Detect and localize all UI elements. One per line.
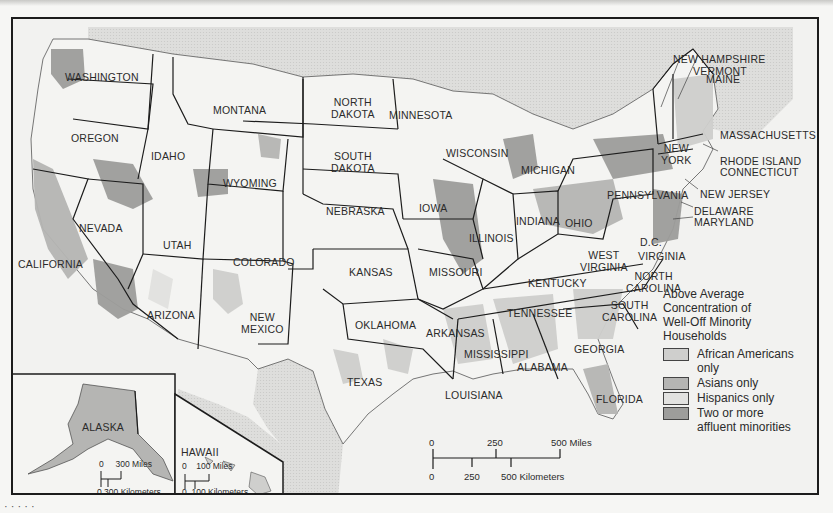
state-label-ohio: OHIO <box>565 217 593 229</box>
alaska-scale-miles: 0 300 Miles <box>99 459 152 469</box>
state-label-oklahoma: OKLAHOMA <box>355 319 416 331</box>
legend: Above Average Concentration of Well-Off … <box>663 287 819 435</box>
state-label-florida: FLORIDA <box>596 393 643 405</box>
state-label-south-dakota: SOUTH DAKOTA <box>331 150 375 174</box>
state-label-new-hampshire: NEW HAMPSHIRE <box>673 53 765 65</box>
hawaii-scale-miles: 0 100 Miles <box>182 461 233 471</box>
state-label-kansas: KANSAS <box>349 266 393 278</box>
state-label-louisiana: LOUISIANA <box>445 389 503 401</box>
state-label-illinois: ILLINOIS <box>469 232 514 244</box>
swatch-african-americans <box>663 348 689 361</box>
scale-miles-250: 250 <box>487 437 503 448</box>
state-label-hawaii: HAWAII <box>181 446 219 458</box>
state-label-pennsylvania: PENNSYLVANIA <box>607 189 688 201</box>
state-label-maine: MAINE <box>706 73 740 85</box>
state-label-wyoming: WYOMING <box>223 177 277 189</box>
state-label-colorado: COLORADO <box>233 256 295 268</box>
state-label-washington: WASHINGTON <box>65 71 139 83</box>
state-label-kentucky: KENTUCKY <box>528 277 587 289</box>
legend-item-two-or-more: Two or more affluent minorities <box>663 406 819 434</box>
state-label-arizona: ARIZONA <box>147 309 195 321</box>
scale-km-500: 500 Kilometers <box>501 471 564 482</box>
state-label-d-c: D.C. <box>640 236 662 248</box>
state-label-mississippi: MISSISSIPPI <box>464 348 529 360</box>
state-label-arkansas: ARKANSAS <box>426 327 485 339</box>
state-label-nevada: NEVADA <box>79 222 123 234</box>
state-label-texas: TEXAS <box>347 376 382 388</box>
legend-item-african-americans: African Americans only <box>663 347 819 375</box>
legend-label: Two or more affluent minorities <box>697 406 791 434</box>
state-label-montana: MONTANA <box>213 104 266 116</box>
state-label-south-carolina: SOUTH CAROLINA <box>602 299 657 323</box>
state-label-michigan: MICHIGAN <box>521 164 575 176</box>
state-label-missouri: MISSOURI <box>429 266 483 278</box>
state-label-wisconsin: WISCONSIN <box>446 147 508 159</box>
state-label-idaho: IDAHO <box>151 150 185 162</box>
legend-title: Above Average Concentration of Well-Off … <box>663 287 819 343</box>
state-label-georgia: GEORGIA <box>574 343 624 355</box>
state-label-west-virginia: WEST VIRGINIA <box>580 249 628 273</box>
swatch-asians <box>663 377 689 390</box>
state-label-tennessee: TENNESSEE <box>507 307 572 319</box>
state-label-california: CALIFORNIA <box>18 258 83 270</box>
state-label-new-mexico: NEW MEXICO <box>241 311 284 335</box>
hawaii-scale-km: 0 100 Kilometers <box>182 487 248 495</box>
footer-marks: · · · · · <box>4 500 35 512</box>
legend-label: Hispanics only <box>697 391 774 405</box>
legend-label: African Americans only <box>697 347 794 375</box>
swatch-hispanics <box>663 392 689 405</box>
legend-item-hispanics: Hispanics only <box>663 391 819 405</box>
scale-miles-0: 0 <box>429 437 434 448</box>
scale-km-250: 250 <box>464 471 480 482</box>
state-label-indiana: INDIANA <box>516 215 560 227</box>
legend-item-asians: Asians only <box>663 376 819 390</box>
state-label-iowa: IOWA <box>419 202 447 214</box>
state-label-north-dakota: NORTH DAKOTA <box>331 96 375 120</box>
state-label-utah: UTAH <box>163 239 192 251</box>
state-label-connecticut: CONNECTICUT <box>720 166 799 178</box>
state-label-maryland: MARYLAND <box>694 216 754 228</box>
state-label-virginia: VIRGINIA <box>638 250 686 262</box>
map-frame: WASHINGTONOREGONIDAHOMONTANAWYOMINGNORTH… <box>11 17 819 495</box>
alaska-scale-km: 0 300 Kilometers <box>97 487 161 495</box>
scale-miles-500: 500 Miles <box>551 437 592 448</box>
state-label-alaska: ALASKA <box>82 421 124 433</box>
state-label-new-jersey: NEW JERSEY <box>700 188 770 200</box>
scale-km-0: 0 <box>429 471 434 482</box>
state-label-oregon: OREGON <box>71 132 119 144</box>
page-edge-shadow <box>0 0 833 6</box>
swatch-two-or-more <box>663 407 689 420</box>
alaska-inset <box>13 374 175 495</box>
state-label-new-york: NEW YORK <box>661 142 692 166</box>
legend-label: Asians only <box>697 376 758 390</box>
state-label-massachusetts: MASSACHUSETTS <box>720 129 816 141</box>
state-label-alabama: ALABAMA <box>517 361 568 373</box>
state-label-minnesota: MINNESOTA <box>389 109 452 121</box>
state-label-nebraska: NEBRASKA <box>326 205 385 217</box>
